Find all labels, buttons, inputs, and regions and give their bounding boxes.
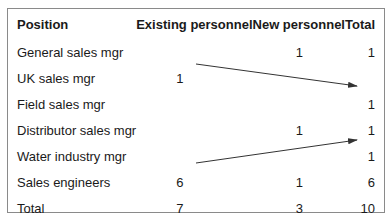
cell-position: Sales engineers [8, 169, 136, 195]
header-existing-personnel: Existing personnel [136, 9, 252, 39]
cell-total: 1 [345, 91, 385, 117]
cell-new: 1 [253, 169, 345, 195]
table-row: Distributor sales mgr 1 1 [8, 117, 385, 143]
table-row: UK sales mgr 1 [8, 65, 385, 91]
cell-existing [136, 143, 252, 169]
cell-position: General sales mgr [8, 39, 136, 65]
cell-position: Total [8, 195, 136, 221]
header-new-personnel: New personnel [253, 9, 345, 39]
table-row: Field sales mgr 1 [8, 91, 385, 117]
cell-total: 6 [345, 169, 385, 195]
cell-total: 10 [345, 195, 385, 221]
cell-position: Water industry mgr [8, 143, 136, 169]
personnel-table-frame: Position Existing personnel New personne… [7, 8, 385, 213]
cell-new [253, 65, 345, 91]
table-header-row: Position Existing personnel New personne… [8, 9, 385, 39]
table-row: Water industry mgr 1 [8, 143, 385, 169]
cell-total: 1 [345, 143, 385, 169]
header-total: Total [345, 9, 385, 39]
cell-new [253, 91, 345, 117]
cell-total: 1 [345, 39, 385, 65]
cell-position: Distributor sales mgr [8, 117, 136, 143]
cell-position: UK sales mgr [8, 65, 136, 91]
cell-new: 1 [253, 117, 345, 143]
cell-existing: 1 [136, 65, 252, 91]
header-position: Position [8, 9, 136, 39]
personnel-table: Position Existing personnel New personne… [8, 9, 385, 221]
cell-position: Field sales mgr [8, 91, 136, 117]
cell-existing: 6 [136, 169, 252, 195]
cell-existing [136, 117, 252, 143]
cell-total [345, 65, 385, 91]
cell-new [253, 143, 345, 169]
cell-new: 3 [253, 195, 345, 221]
cell-existing [136, 91, 252, 117]
cell-existing [136, 39, 252, 65]
cell-existing: 7 [136, 195, 252, 221]
table-total-row: Total 7 3 10 [8, 195, 385, 221]
table-row: General sales mgr 1 1 [8, 39, 385, 65]
cell-total: 1 [345, 117, 385, 143]
cell-new: 1 [253, 39, 345, 65]
table-row: Sales engineers 6 1 6 [8, 169, 385, 195]
